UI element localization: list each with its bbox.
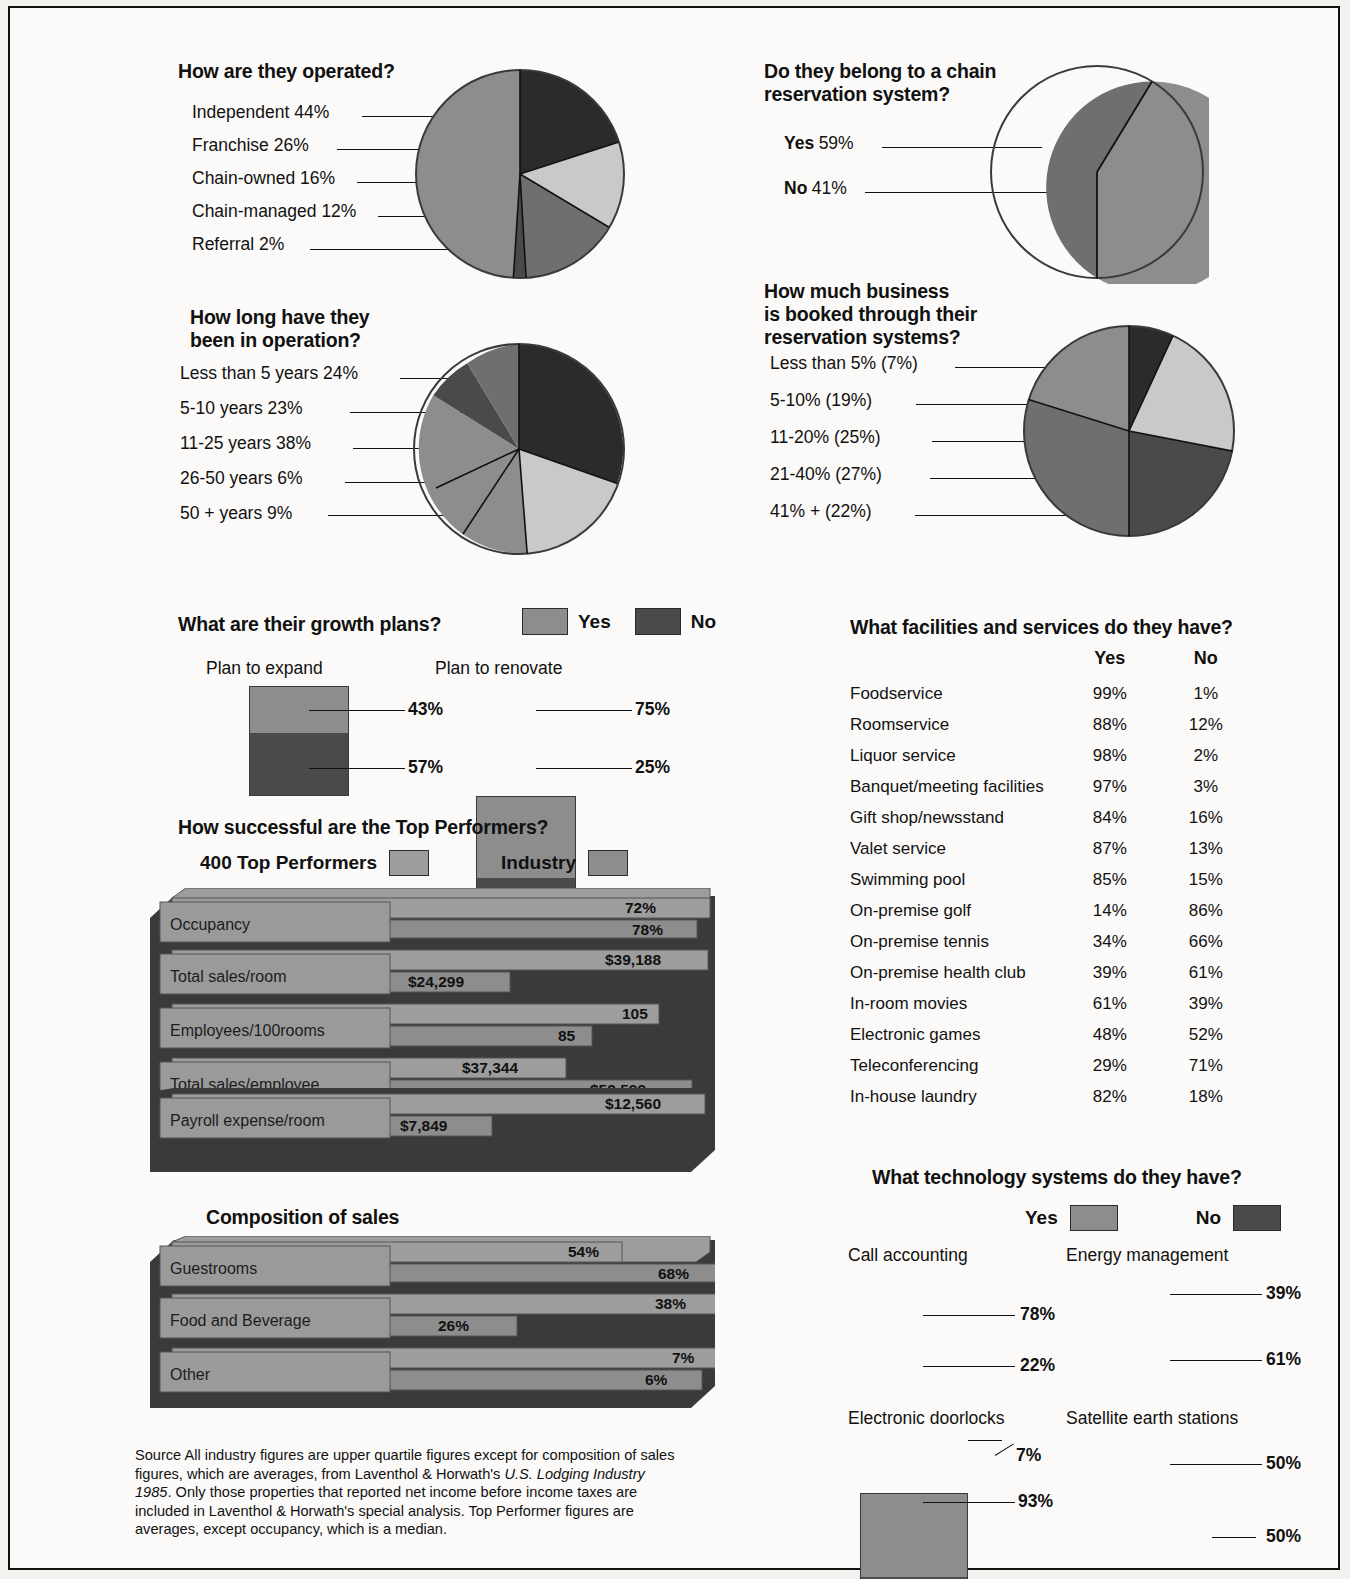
tech-legend-swatch-no bbox=[1233, 1205, 1281, 1231]
source-line2i: U.S. Lodging bbox=[504, 1466, 588, 1482]
facility-no-value: 66% bbox=[1158, 926, 1254, 957]
facilities-table: Yes No Foodservice99%1%Roomservice88%12%… bbox=[850, 648, 1254, 1112]
tech-legend-label-yes: Yes bbox=[1025, 1207, 1058, 1229]
growth-group-label-expand: Plan to expand bbox=[206, 658, 323, 679]
legend-label-yes: Yes bbox=[578, 611, 611, 633]
source-line5: averages, except occupancy, which is a m… bbox=[135, 1521, 447, 1537]
pie-booked-chart bbox=[1018, 320, 1240, 542]
tech-label-satellite: Satellite earth stations bbox=[1066, 1408, 1238, 1429]
tech-value-satellite-no: 50% bbox=[1266, 1526, 1301, 1547]
facility-yes-value: 34% bbox=[1062, 926, 1158, 957]
facility-yes-value: 82% bbox=[1062, 1081, 1158, 1112]
source-line1: Source All industry figures are upper qu… bbox=[135, 1447, 636, 1463]
facility-yes-value: 14% bbox=[1062, 895, 1158, 926]
tech-legend-swatch-yes bbox=[1070, 1205, 1118, 1231]
svg-text:78%: 78% bbox=[632, 921, 663, 938]
table-row: Liquor service98%2% bbox=[850, 740, 1254, 771]
table-row: In-house laundry82%18% bbox=[850, 1081, 1254, 1112]
leader-line bbox=[309, 710, 405, 711]
svg-text:$12,560: $12,560 bbox=[605, 1095, 661, 1112]
svg-text:Food and Beverage: Food and Beverage bbox=[170, 1312, 311, 1329]
pie-operated-label-0: Independent 44% bbox=[192, 102, 356, 135]
pie-booked-label-0: Less than 5% (7%) bbox=[770, 353, 918, 390]
pie-operated-chart bbox=[410, 64, 630, 284]
svg-text:Payroll expense/room: Payroll expense/room bbox=[170, 1112, 325, 1129]
growth-value-expand-yes: 43% bbox=[408, 699, 443, 720]
pie-operated-labels: Independent 44% Franchise 26% Chain-owne… bbox=[192, 102, 356, 267]
source-line3a: . Only those properties that reported ne… bbox=[167, 1484, 612, 1500]
facility-name: Electronic games bbox=[850, 1019, 1062, 1050]
legend-swatch-industry bbox=[588, 850, 628, 876]
facility-no-value: 39% bbox=[1158, 988, 1254, 1019]
svg-text:Occupancy: Occupancy bbox=[170, 916, 250, 933]
leader-line bbox=[1170, 1294, 1262, 1295]
tech-value-energy-yes: 39% bbox=[1266, 1283, 1301, 1304]
pie-operation-title-line1: How long have they bbox=[190, 306, 490, 329]
facility-name: Valet service bbox=[850, 833, 1062, 864]
pie-operated-label-3: Chain-managed 12% bbox=[192, 201, 356, 234]
growth-value-renovate-no: 25% bbox=[635, 757, 670, 778]
pie-chain-label-0: Yes 59% bbox=[784, 133, 854, 178]
tech-legend-label-no: No bbox=[1196, 1207, 1221, 1229]
pie-operation-labels: Less than 5 years 24% 5-10 years 23% 11-… bbox=[180, 363, 358, 538]
leader-line bbox=[536, 768, 632, 769]
facility-yes-value: 61% bbox=[1062, 988, 1158, 1019]
facility-no-value: 18% bbox=[1158, 1081, 1254, 1112]
facility-no-value: 13% bbox=[1158, 833, 1254, 864]
leader-line bbox=[1170, 1360, 1262, 1361]
facility-no-value: 61% bbox=[1158, 957, 1254, 988]
leader-line bbox=[923, 1366, 1015, 1367]
growth-bar-expand-no bbox=[250, 733, 348, 795]
leader-line bbox=[1170, 1464, 1262, 1465]
table-row: Roomservice88%12% bbox=[850, 709, 1254, 740]
composition-title: Composition of sales bbox=[206, 1206, 399, 1229]
facility-name: Roomservice bbox=[850, 709, 1062, 740]
tech-value-energy-no: 61% bbox=[1266, 1349, 1301, 1370]
pie-operated-label-4: Referral 2% bbox=[192, 234, 356, 267]
facility-no-value: 1% bbox=[1158, 678, 1254, 709]
facility-yes-value: 87% bbox=[1062, 833, 1158, 864]
growth-plans-legend: Yes No bbox=[522, 608, 716, 635]
composition-chart: .c1{fill:#9d9d9d;stroke:#555;stroke-widt… bbox=[150, 1236, 715, 1416]
pie-booked-label-3: 21-40% (27%) bbox=[770, 464, 918, 501]
svg-text:54%: 54% bbox=[568, 1243, 599, 1260]
facility-name: Swimming pool bbox=[850, 864, 1062, 895]
pie-operation-label-3: 26-50 years 6% bbox=[180, 468, 358, 503]
svg-text:Other: Other bbox=[170, 1366, 211, 1383]
growth-plans-title: What are their growth plans? bbox=[178, 613, 441, 636]
facility-yes-value: 39% bbox=[1062, 957, 1158, 988]
pie-booked-label-1: 5-10% (19%) bbox=[770, 390, 918, 427]
facility-yes-value: 84% bbox=[1062, 802, 1158, 833]
pie-operation-chart bbox=[408, 338, 630, 560]
table-row: Valet service87%13% bbox=[850, 833, 1254, 864]
facility-name: In-room movies bbox=[850, 988, 1062, 1019]
pie-operation-label-4: 50 + years 9% bbox=[180, 503, 358, 538]
infographic-page: How are they operated? Independent 44% F… bbox=[8, 6, 1340, 1570]
facility-name: Foodservice bbox=[850, 678, 1062, 709]
top-performers-chart-payroll: .b1{fill:#9d9d9d;stroke:#555;stroke-widt… bbox=[150, 1088, 715, 1188]
table-row: Foodservice99%1% bbox=[850, 678, 1254, 709]
pie-chain-labels: Yes 59% No 41% bbox=[784, 133, 854, 199]
facility-name: On-premise health club bbox=[850, 957, 1062, 988]
facility-yes-value: 99% bbox=[1062, 678, 1158, 709]
facility-no-value: 15% bbox=[1158, 864, 1254, 895]
legend-swatch-top-performers bbox=[389, 850, 429, 876]
pie-operated-label-2: Chain-owned 16% bbox=[192, 168, 356, 201]
pie-chain-chart bbox=[985, 60, 1209, 284]
table-row: On-premise health club39%61% bbox=[850, 957, 1254, 988]
pie-operated-title: How are they operated? bbox=[178, 60, 395, 83]
facility-no-value: 86% bbox=[1158, 895, 1254, 926]
table-row: Electronic games48%52% bbox=[850, 1019, 1254, 1050]
svg-text:$37,344: $37,344 bbox=[462, 1059, 518, 1076]
top-performers-legend: 400 Top Performers Industry bbox=[200, 850, 628, 876]
tech-bar-call-accounting bbox=[860, 1493, 968, 1579]
table-row: Gift shop/newsstand84%16% bbox=[850, 802, 1254, 833]
growth-bar-expand bbox=[249, 686, 349, 796]
facility-name: Liquor service bbox=[850, 740, 1062, 771]
facility-name: On-premise tennis bbox=[850, 926, 1062, 957]
technology-legend: Yes No bbox=[1025, 1205, 1281, 1231]
facility-no-value: 52% bbox=[1158, 1019, 1254, 1050]
facility-yes-value: 88% bbox=[1062, 709, 1158, 740]
svg-text:105: 105 bbox=[622, 1005, 648, 1022]
facilities-table-header-row: Yes No bbox=[850, 648, 1254, 678]
